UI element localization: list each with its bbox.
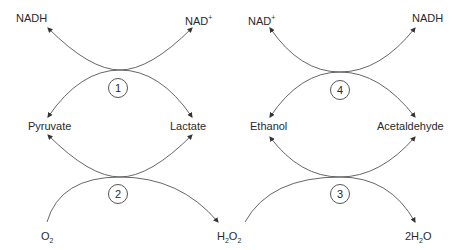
reaction-4-marker: 4 bbox=[330, 80, 350, 100]
arrow-nadh bbox=[48, 28, 120, 70]
pyruvate-label: Pyruvate bbox=[28, 120, 71, 132]
reaction-1-marker: 1 bbox=[108, 78, 128, 98]
ethanol-label: Ethanol bbox=[250, 120, 287, 132]
nad-plus-label-right: NAD+ bbox=[248, 12, 275, 27]
reaction-2-marker: 2 bbox=[108, 184, 128, 204]
lactate-label: Lactate bbox=[170, 120, 206, 132]
o2-label: O2 bbox=[41, 230, 53, 247]
reaction-3-marker: 3 bbox=[330, 184, 350, 204]
nadh-label-right: NADH bbox=[412, 12, 443, 24]
nad-plus-label: NAD+ bbox=[185, 12, 212, 27]
water-label: 2H2O bbox=[405, 230, 432, 247]
acetaldehyde-label: Acetaldehyde bbox=[377, 120, 444, 132]
nadh-label: NADH bbox=[16, 12, 47, 24]
h2o2-label: H2O2 bbox=[217, 230, 241, 247]
